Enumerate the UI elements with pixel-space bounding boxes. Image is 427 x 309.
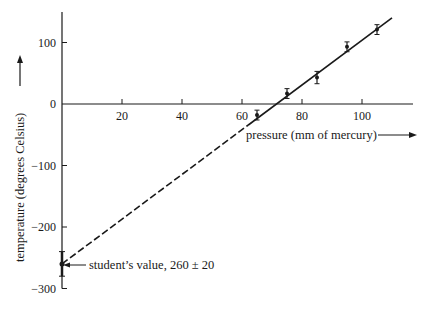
x-tick-label: 100 (353, 109, 371, 123)
student-value-annotation: student’s value, 260 ± 20 (63, 258, 214, 272)
y-tick-label: 100 (38, 36, 56, 50)
y-tick-label: 0 (50, 97, 56, 111)
fit-line-dashed (62, 125, 248, 264)
data-point (345, 45, 349, 49)
x-tick-label: 40 (176, 109, 188, 123)
x-axis-label: pressure (mm of mercury) (246, 128, 417, 142)
y-tick-label: −300 (31, 282, 56, 296)
axes (62, 12, 413, 289)
y-axis-title: temperature (degrees Celsius) (13, 113, 27, 262)
data-point (255, 113, 259, 117)
x-tick-label: 60 (236, 109, 248, 123)
x-tick-label: 80 (296, 109, 308, 123)
data-point (285, 92, 289, 96)
data-point (315, 76, 319, 80)
student-value-point (60, 261, 65, 266)
annotation-text: student’s value, 260 ± 20 (89, 258, 214, 272)
y-tick-label: −200 (31, 220, 56, 234)
x-axis-title: pressure (mm of mercury) (246, 128, 377, 142)
tick-labels: 204060801001000−100−200−300 (31, 36, 371, 296)
data-point (375, 28, 379, 32)
y-tick-label: −100 (31, 159, 56, 173)
chart: 204060801001000−100−200−300 student’s va… (0, 0, 427, 309)
x-tick-label: 20 (116, 109, 128, 123)
y-axis-label: temperature (degrees Celsius) (13, 55, 27, 262)
